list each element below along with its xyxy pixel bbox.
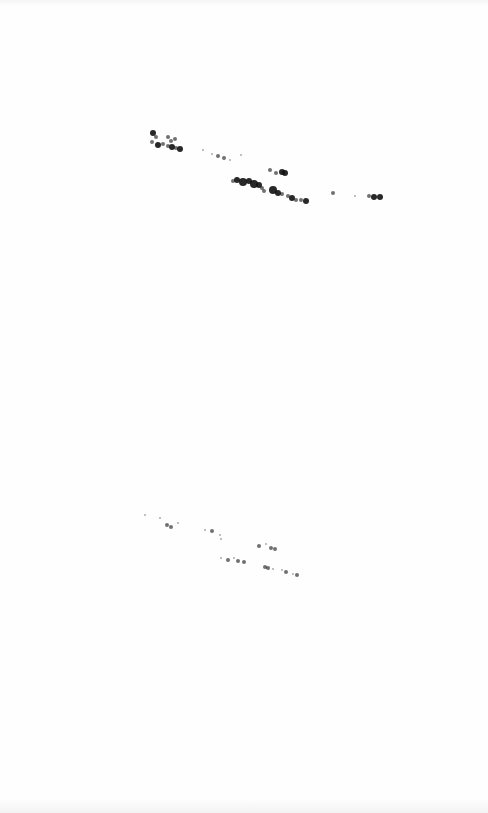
dot [159,517,161,519]
dot [265,543,267,545]
image-canvas [0,0,488,813]
dot [284,570,288,574]
dot [233,557,235,559]
dot [226,558,230,562]
dot [177,522,179,524]
dot [292,573,294,575]
dot [220,557,222,559]
dot [281,569,283,571]
dot [257,544,261,548]
scan-edge-bottom [0,799,488,813]
dot [219,534,221,536]
dot [266,566,270,570]
dot [204,529,206,531]
dot [242,560,246,564]
dot [169,525,173,529]
dot [220,538,222,540]
dot [236,559,240,563]
dot [144,514,146,516]
lower-dot-cluster [0,0,488,813]
dot [210,529,214,533]
dot [272,568,274,570]
dot [295,573,299,577]
dot [273,547,277,551]
